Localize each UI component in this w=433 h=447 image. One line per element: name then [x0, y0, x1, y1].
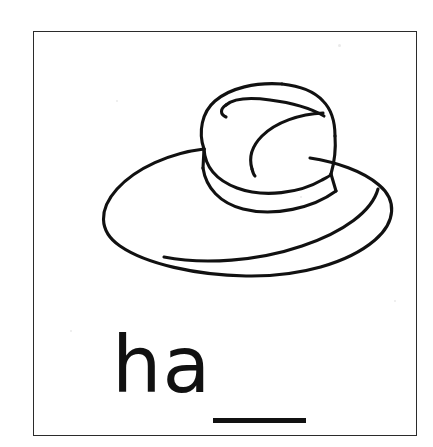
card-border-frame: ha — [33, 31, 417, 436]
word-prompt: ha — [34, 322, 418, 437]
worksheet-card: ha — [0, 0, 433, 447]
prompt-letters: ha — [112, 322, 211, 408]
hat-crown-dent-path — [251, 113, 323, 169]
hat-crown-dent-tail-path — [252, 169, 255, 176]
hat-crown-brim-joint-right-path — [331, 174, 336, 191]
prompt-blank-line[interactable] — [213, 418, 306, 423]
hat-crown-left-path — [201, 84, 282, 149]
hat-crown-right-path — [331, 136, 335, 174]
hat-crown-brim-joint-left-path — [203, 149, 204, 168]
scan-speckle — [394, 300, 396, 302]
hat-band-upper-path — [204, 149, 331, 193]
hat-brim-underside-path — [164, 189, 378, 261]
scan-speckle — [70, 330, 72, 332]
scan-speckle — [338, 44, 341, 47]
hat-line-drawing — [86, 56, 396, 286]
scan-speckle — [300, 196, 302, 198]
hat-crown-crease-hook-path — [222, 105, 227, 117]
scan-speckle — [116, 100, 118, 102]
hat-illustration-svg — [86, 56, 396, 286]
hat-outline-group — [103, 84, 391, 276]
hat-band-lower-path — [203, 168, 336, 212]
